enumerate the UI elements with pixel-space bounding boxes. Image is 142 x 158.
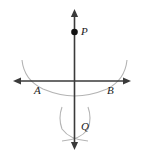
horizontal-line-right-arrowhead (123, 77, 131, 84)
figure-canvas: P A B Q (0, 0, 142, 158)
point-label-Q: Q (81, 120, 89, 132)
vertical-line-bottom-arrowhead (71, 142, 78, 150)
horizontal-line-left-arrowhead (13, 77, 21, 84)
point-label-P: P (80, 25, 88, 37)
vertical-line-top-arrowhead (71, 9, 78, 17)
point-P-dot (71, 29, 78, 36)
point-label-B: B (107, 84, 114, 96)
geometry-figure: P A B Q (0, 0, 142, 158)
point-label-A: A (33, 84, 41, 96)
